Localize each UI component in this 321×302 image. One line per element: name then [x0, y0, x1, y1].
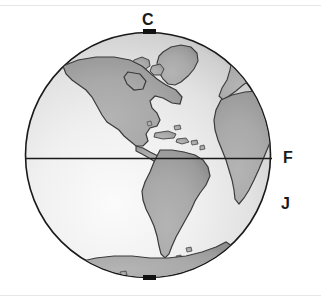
- figure-root: C F J: [0, 0, 321, 302]
- label-c: C: [142, 12, 154, 28]
- globe-illustration: [0, 0, 321, 302]
- north-pole-marker: [143, 29, 156, 34]
- antarctic-islet-1: [186, 247, 192, 252]
- label-j: J: [281, 196, 290, 212]
- caribbean-islet: [147, 121, 152, 126]
- south-pole-marker: [143, 275, 156, 280]
- label-f: F: [283, 150, 293, 166]
- puerto-rico-shape: [191, 140, 198, 145]
- lesser-antilles-shape: [200, 145, 205, 150]
- bahamas-shape: [174, 125, 181, 130]
